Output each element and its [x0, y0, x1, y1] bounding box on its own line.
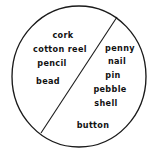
diagram-canvas	[0, 0, 157, 155]
item-label-shell: shell	[94, 99, 117, 108]
item-label-pencil: pencil	[37, 59, 67, 68]
item-label-cotton-reel: cotton reel	[33, 45, 87, 54]
item-label-pin: pin	[105, 71, 120, 80]
sorting-circle-diagram: cork cotton reel pencil bead penny nail …	[0, 0, 157, 155]
item-label-cork: cork	[52, 31, 73, 40]
item-label-bead: bead	[36, 77, 60, 86]
item-label-button: button	[77, 121, 110, 130]
item-label-penny: penny	[105, 44, 135, 53]
item-label-pebble: pebble	[93, 85, 126, 94]
item-label-nail: nail	[108, 57, 126, 66]
